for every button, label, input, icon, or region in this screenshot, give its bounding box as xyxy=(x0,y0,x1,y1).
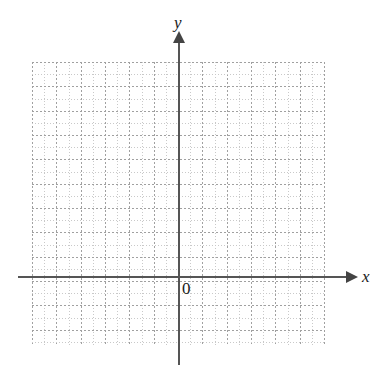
gridline-vertical-minor xyxy=(117,62,118,345)
y-axis-label: y xyxy=(174,14,182,31)
gridline-vertical-minor xyxy=(263,62,264,345)
coordinate-plane: x y 0 xyxy=(0,0,383,376)
y-axis-line xyxy=(178,42,180,365)
gridline-vertical-minor xyxy=(239,62,240,345)
gridline-vertical-major xyxy=(81,62,82,345)
gridline-vertical-major xyxy=(202,62,203,345)
gridline-vertical-minor xyxy=(190,62,191,345)
origin-label: 0 xyxy=(182,280,191,297)
gridline-vertical-minor xyxy=(312,62,313,345)
gridline-vertical-major xyxy=(300,62,301,345)
gridline-vertical-minor xyxy=(288,62,289,345)
x-axis-line xyxy=(18,276,348,278)
gridline-vertical-minor xyxy=(142,62,143,345)
gridline-vertical-major xyxy=(154,62,155,345)
gridline-vertical-major xyxy=(227,62,228,345)
gridline-vertical-major xyxy=(32,62,33,345)
gridline-vertical-major xyxy=(275,62,276,345)
x-axis-arrow-icon xyxy=(346,271,358,283)
gridline-vertical-minor xyxy=(215,62,216,345)
gridline-vertical-major xyxy=(105,62,106,345)
gridline-vertical-major xyxy=(251,62,252,345)
y-axis-arrow-icon xyxy=(173,31,185,43)
gridline-vertical-major xyxy=(324,62,325,345)
gridline-vertical-minor xyxy=(69,62,70,345)
gridline-vertical-major xyxy=(129,62,130,345)
gridline-vertical-minor xyxy=(93,62,94,345)
gridline-vertical-minor xyxy=(44,62,45,345)
gridline-vertical-major xyxy=(56,62,57,345)
x-axis-label: x xyxy=(362,268,370,285)
gridline-vertical-minor xyxy=(166,62,167,345)
